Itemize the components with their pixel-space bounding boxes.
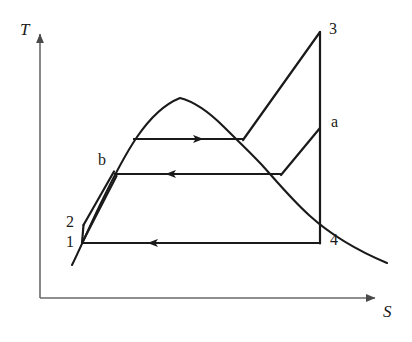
state-point-label-b: b	[98, 152, 106, 168]
process-superheat-to-3	[243, 32, 320, 140]
state-point-label-1: 1	[66, 234, 74, 250]
state-point-label-4: 4	[330, 232, 338, 248]
ts-diagram-canvas	[0, 0, 412, 342]
process-1-to-2	[82, 225, 84, 243]
saturation-dome-group	[72, 98, 387, 265]
state-point-label-3: 3	[329, 21, 337, 37]
state-point-label-a: a	[331, 114, 338, 130]
saturation-curve	[72, 98, 387, 265]
process-2-to-b	[84, 172, 115, 226]
axes-group	[40, 34, 375, 298]
process-1-to-b	[82, 176, 117, 243]
entropy-axis-label: S	[383, 303, 392, 320]
process-junction-to-a	[281, 128, 320, 175]
cycle-paths-group	[82, 32, 320, 244]
temperature-axis-label: T	[20, 21, 29, 38]
ts-diagram-figure: T S 1 2 3 4 a b	[0, 0, 412, 342]
state-point-label-2: 2	[66, 214, 74, 230]
